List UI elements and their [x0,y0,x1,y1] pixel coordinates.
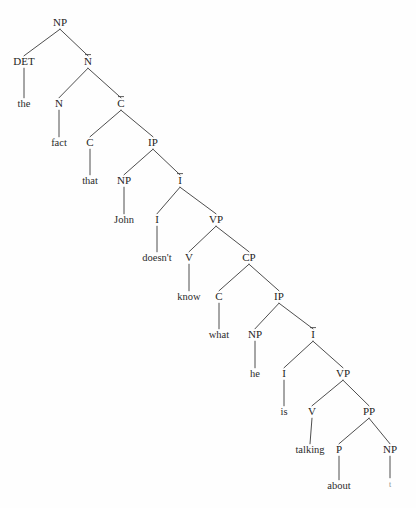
tree-edge [59,68,88,98]
tree-terminal-label: talking [295,444,325,455]
tree-terminal-label: what [209,329,229,340]
tree-node-label: C [86,136,93,148]
tree-edge [312,380,343,406]
tree-edge [219,264,249,291]
tree-node-label: I [155,213,159,225]
tree-edge [157,187,180,214]
tree-edge [121,110,153,137]
tree-node-label: VP [336,367,350,379]
tree-node-label: IP [148,136,158,148]
tree-node-layer: NPDETNtheNCfactCIPthatNPIJohnIVPdoesn'tV… [13,16,397,491]
tree-edge [310,418,312,444]
tree-edge-layer [24,29,390,480]
tree-terminal-label: know [177,291,201,302]
tree-edge [24,29,60,56]
tree-node-label: C [215,290,222,302]
tree-node-label: NP [248,328,262,340]
tree-edge [216,226,249,252]
syntax-tree-figure: NPDETNtheNCfactCIPthatNPIJohnIVPdoesn'tV… [0,0,416,508]
tree-node-label: V [185,251,193,263]
tree-edge [313,341,343,368]
tree-node-label: PP [363,405,375,417]
tree-edge [343,380,369,406]
tree-node-label: NP [383,443,397,455]
tree-edge [60,29,88,56]
tree-edge [284,341,313,368]
tree-node-label: I [178,174,182,186]
tree-edge [189,226,216,252]
tree-edge [90,110,121,137]
tree-edge [249,264,279,291]
tree-edge [124,149,153,175]
tree-terminal-label: he [250,368,260,379]
tree-terminal-label: is [280,406,287,417]
tree-terminal-label: fact [51,137,67,148]
tree-edge [153,149,180,175]
tree-edge [88,68,121,98]
tree-node-label: NP [117,174,131,186]
tree-node-label: DET [13,55,35,67]
tree-node-label: I [311,328,315,340]
tree-terminal-label: t [389,480,392,489]
tree-terminal-label: about [327,480,350,491]
tree-node-label: IP [274,290,284,302]
tree-node-label: V [308,405,316,417]
tree-node-label: I [282,367,286,379]
syntax-tree-canvas: NPDETNtheNCfactCIPthatNPIJohnIVPdoesn'tV… [0,0,416,508]
tree-node-label: CP [242,251,255,263]
tree-terminal-label: that [82,175,98,186]
tree-terminal-label: John [114,214,135,225]
tree-node-label: N [84,55,92,67]
tree-edge [279,303,313,329]
tree-node-label: N [55,97,63,109]
tree-edge [339,418,369,444]
tree-edge [180,187,216,214]
tree-edge [255,303,279,329]
tree-node-label: NP [53,16,67,28]
tree-edge [369,418,390,444]
tree-node-label: P [336,443,342,455]
tree-terminal-label: doesn't [142,252,171,263]
tree-terminal-label: the [18,98,31,109]
tree-node-label: VP [209,213,223,225]
tree-node-label: C [117,97,124,109]
